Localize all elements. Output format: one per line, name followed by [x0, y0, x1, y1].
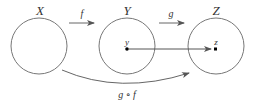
point-z-label: z: [213, 37, 218, 47]
function-composition-diagram: X Y Z f g y z g ∘ f: [0, 0, 257, 106]
point-y-label: y: [124, 37, 129, 47]
set-x-circle: [11, 18, 67, 74]
point-z-dot: [214, 48, 217, 51]
set-y-label: Y: [123, 3, 132, 18]
composite-label: g ∘ f: [118, 89, 137, 100]
f-label: f: [81, 8, 85, 19]
set-z-label: Z: [212, 3, 220, 18]
composite-arrow: [62, 70, 189, 83]
g-label: g: [169, 8, 174, 19]
set-x-label: X: [35, 3, 45, 18]
